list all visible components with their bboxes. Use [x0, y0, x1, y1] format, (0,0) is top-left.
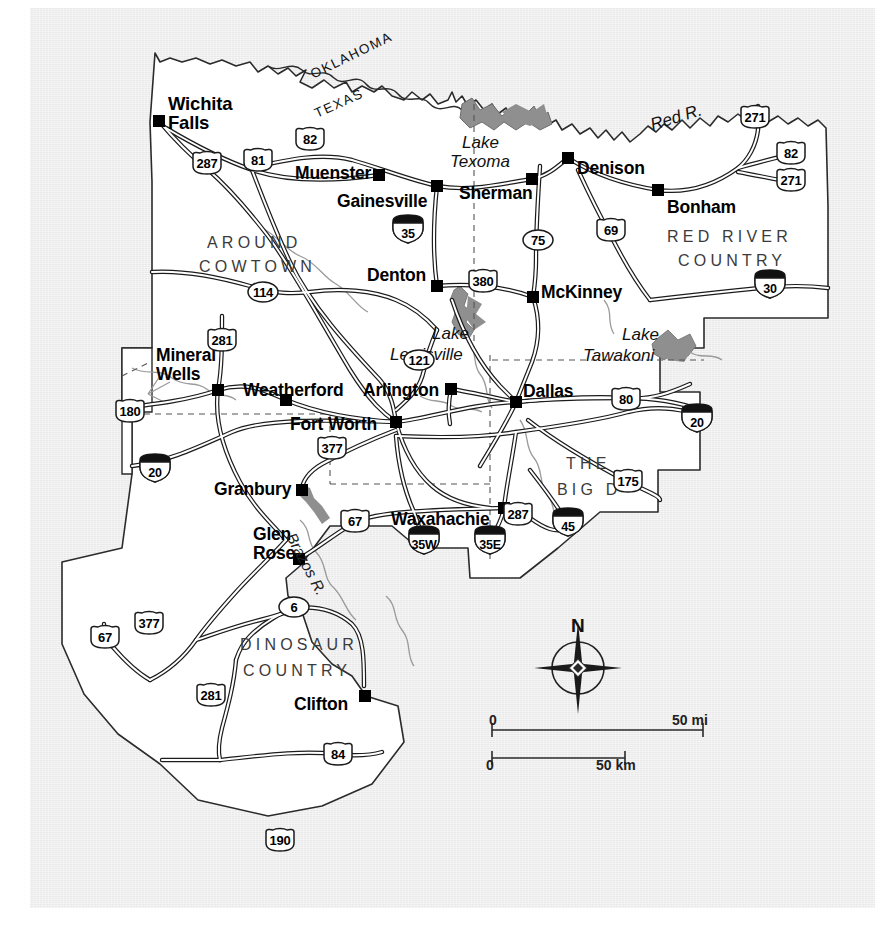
highway-shield-interstate-20[interactable]: 20 [137, 453, 173, 483]
shield-number: 67 [86, 624, 124, 650]
shield-number: 30 [752, 269, 788, 299]
city-marker-muenster[interactable] [373, 169, 385, 181]
highway-shield-interstate-30[interactable]: 30 [752, 269, 788, 299]
highway-shield-interstate-35e[interactable]: 35E [472, 525, 508, 555]
highway-shield-us-175[interactable]: 175 [609, 468, 647, 494]
shield-number: 271 [736, 104, 774, 130]
compass-rose [534, 622, 622, 714]
shield-number: 82 [291, 126, 329, 152]
highway-shield-state-114[interactable]: 114 [246, 280, 280, 304]
highway-shield-us-69[interactable]: 69 [592, 217, 630, 243]
highway-shield-us-81[interactable]: 81 [239, 147, 277, 173]
highway-shield-us-67[interactable]: 67 [336, 508, 374, 534]
highway-shield-interstate-45[interactable]: 45 [550, 507, 586, 537]
highway-shield-us-67[interactable]: 67 [86, 624, 124, 650]
highway-shield-us-82[interactable]: 82 [291, 126, 329, 152]
shield-number: 6 [277, 595, 311, 619]
shield-number: 271 [772, 167, 810, 193]
shield-number: 20 [137, 453, 173, 483]
highway-shield-us-287[interactable]: 287 [188, 150, 226, 176]
scale-bars [492, 723, 703, 765]
shield-number: 20 [679, 403, 715, 433]
city-marker-weatherford[interactable] [280, 394, 292, 406]
shield-number: 175 [609, 468, 647, 494]
highway-shield-us-190[interactable]: 190 [261, 827, 299, 853]
highway-shield-us-80[interactable]: 80 [607, 386, 645, 412]
shield-number: 380 [464, 268, 502, 294]
highway-shield-us-281[interactable]: 281 [203, 327, 241, 353]
shield-number: 67 [336, 508, 374, 534]
city-marker-sherman[interactable] [526, 173, 538, 185]
shield-number: 377 [313, 435, 351, 461]
shield-number: 287 [499, 501, 537, 527]
shield-number: 82 [772, 140, 810, 166]
city-marker-clifton[interactable] [359, 690, 371, 702]
city-marker-arlington[interactable] [445, 383, 457, 395]
highway-shield-state-121[interactable]: 121 [402, 348, 436, 372]
shield-number: 121 [402, 348, 436, 372]
highway-shield-interstate-20[interactable]: 20 [679, 403, 715, 433]
highway-shield-us-377[interactable]: 377 [313, 435, 351, 461]
city-marker-denison[interactable] [562, 152, 574, 164]
city-marker-fort-worth[interactable] [390, 416, 402, 428]
shield-number: 377 [130, 610, 168, 636]
highway-shield-us-180[interactable]: 180 [111, 398, 149, 424]
map-canvas: WichitaFallsMuensterGainesvilleShermanDe… [0, 0, 888, 927]
highway-shield-us-271[interactable]: 271 [772, 167, 810, 193]
shield-number: 114 [246, 280, 280, 304]
land-polygon [62, 53, 828, 816]
highway-shield-us-82[interactable]: 82 [772, 140, 810, 166]
city-marker-bonham[interactable] [652, 184, 664, 196]
shield-number: 35 [390, 214, 426, 244]
shield-number: 287 [188, 150, 226, 176]
city-marker-granbury[interactable] [296, 484, 308, 496]
highway-shield-state-6[interactable]: 6 [277, 595, 311, 619]
shield-number: 69 [592, 217, 630, 243]
highway-shield-us-281[interactable]: 281 [192, 682, 230, 708]
highway-shield-us-287[interactable]: 287 [499, 501, 537, 527]
shield-number: 281 [203, 327, 241, 353]
shield-number: 81 [239, 147, 277, 173]
city-marker-gainesville[interactable] [431, 180, 443, 192]
city-marker-wichita[interactable] [153, 115, 165, 127]
map-vector-layer [0, 0, 888, 927]
highway-shield-us-271[interactable]: 271 [736, 104, 774, 130]
shield-number: 190 [261, 827, 299, 853]
highway-shield-state-75[interactable]: 75 [521, 228, 555, 252]
city-marker-denton[interactable] [431, 280, 443, 292]
city-marker-mineral[interactable] [212, 384, 224, 396]
shield-number: 35E [472, 525, 508, 555]
shield-number: 35W [406, 525, 442, 555]
city-marker-glen[interactable] [293, 553, 305, 565]
highway-shield-interstate-35w[interactable]: 35W [406, 525, 442, 555]
highway-shield-us-84[interactable]: 84 [319, 741, 357, 767]
city-marker-mckinney[interactable] [527, 291, 539, 303]
highway-shield-interstate-35[interactable]: 35 [390, 214, 426, 244]
shield-number: 80 [607, 386, 645, 412]
highway-shield-us-377[interactable]: 377 [130, 610, 168, 636]
shield-number: 180 [111, 398, 149, 424]
shield-number: 45 [550, 507, 586, 537]
city-marker-dallas[interactable] [510, 396, 522, 408]
shield-number: 75 [521, 228, 555, 252]
shield-number: 84 [319, 741, 357, 767]
highway-shield-us-380[interactable]: 380 [464, 268, 502, 294]
shield-number: 281 [192, 682, 230, 708]
